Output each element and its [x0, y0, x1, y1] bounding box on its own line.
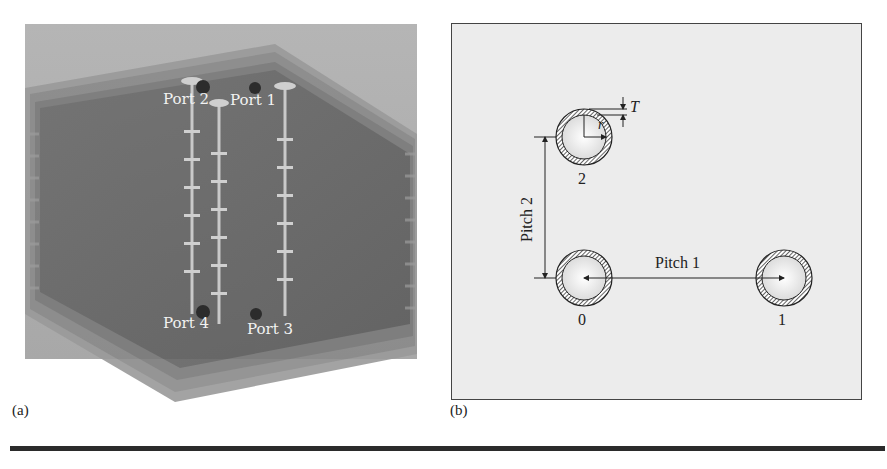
- port-3-label: Port 3: [247, 320, 293, 338]
- port-4-label: Port 4: [163, 314, 209, 332]
- panel-a-label: (a): [12, 402, 29, 419]
- port-3-marker: [250, 308, 262, 320]
- port-1-label: Port 1: [230, 91, 276, 109]
- board-stack-graphic: [25, 24, 417, 402]
- panel-b-label: (b): [450, 402, 468, 419]
- via-1-label: 1: [778, 311, 786, 329]
- thickness-label: T: [630, 98, 639, 116]
- panel-a-3d-render: Port 2 Port 1 Port 4 Port 3: [25, 24, 417, 402]
- pitch-2-label: Pitch 2: [518, 197, 536, 242]
- via-layout-graphic: [452, 24, 863, 401]
- pitch-1-label: Pitch 1: [655, 254, 700, 272]
- via-0-label: 0: [578, 311, 586, 329]
- caption-divider: [10, 446, 885, 451]
- panel-b-via-diagram: r T 2 0 1 Pitch 1 Pitch 2: [451, 23, 862, 400]
- via-2-label: 2: [578, 170, 586, 188]
- radius-label: r: [598, 117, 603, 133]
- port-2-label: Port 2: [163, 90, 209, 108]
